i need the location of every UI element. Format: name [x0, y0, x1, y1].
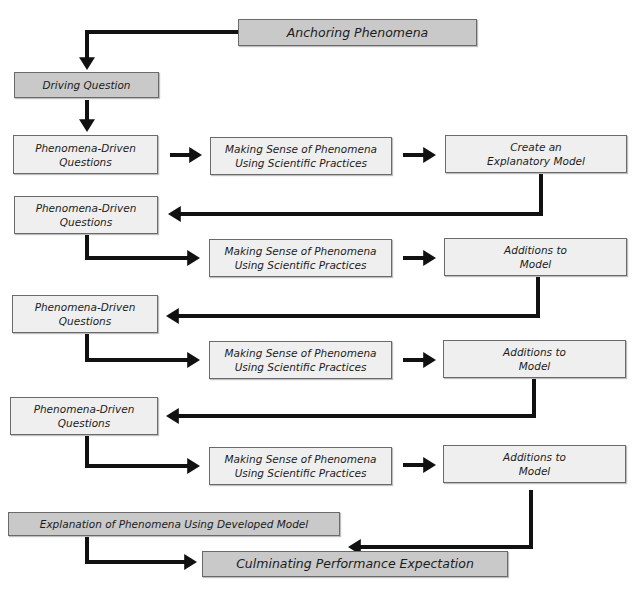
arrow-pdq2-to-ms2: [87, 235, 196, 258]
anchoring-phenomena-box: Anchoring Phenomena: [238, 19, 477, 46]
arrow-anchoring-to-driving: [87, 32, 238, 66]
node-label: Additions to Model: [503, 345, 566, 373]
flowchart: Anchoring Phenomena Driving Question Phe…: [0, 0, 637, 594]
arrow-add1-to-pdq3: [170, 277, 538, 316]
phenomena-driven-questions-box-1: Phenomena-Driven Questions: [13, 135, 158, 174]
create-explanatory-model-box: Create an Explanatory Model: [445, 135, 627, 173]
additions-to-model-box-1: Additions to Model: [444, 238, 627, 276]
node-label: Additions to Model: [504, 243, 567, 271]
arrow-explanation-to-culminating: [87, 537, 193, 562]
arrow-pdq3-to-ms3: [87, 334, 196, 360]
node-label: Making Sense of Phenomena Using Scientif…: [225, 346, 377, 374]
node-label: Anchoring Phenomena: [287, 26, 429, 40]
arrow-pdq4-to-ms4: [87, 436, 196, 466]
arrow-add2-to-pdq4: [170, 379, 534, 416]
arrow-add3-to-explanation: [352, 490, 531, 547]
node-label: Phenomena-Driven Questions: [34, 402, 135, 430]
node-label: Making Sense of Phenomena Using Scientif…: [225, 244, 377, 272]
phenomena-driven-questions-box-2: Phenomena-Driven Questions: [14, 196, 158, 234]
node-label: Making Sense of Phenomena Using Scientif…: [225, 452, 377, 480]
node-label: Additions to Model: [503, 450, 566, 478]
making-sense-box-3: Making Sense of Phenomena Using Scientif…: [209, 341, 392, 379]
node-label: Phenomena-Driven Questions: [35, 300, 136, 328]
culminating-performance-expectation-box: Culminating Performance Expectation: [202, 551, 508, 577]
additions-to-model-box-3: Additions to Model: [443, 445, 626, 483]
arrow-model-to-pdq2: [172, 174, 541, 214]
driving-question-box: Driving Question: [14, 72, 159, 98]
node-label: Driving Question: [42, 78, 130, 92]
phenomena-driven-questions-box-4: Phenomena-Driven Questions: [10, 397, 158, 435]
node-label: Phenomena-Driven Questions: [35, 141, 136, 169]
node-label: Phenomena-Driven Questions: [36, 201, 137, 229]
additions-to-model-box-2: Additions to Model: [443, 340, 626, 378]
node-label: Making Sense of Phenomena Using Scientif…: [225, 142, 377, 170]
explanation-of-phenomena-box: Explanation of Phenomena Using Developed…: [8, 512, 340, 536]
node-label: Culminating Performance Expectation: [236, 557, 474, 571]
phenomena-driven-questions-box-3: Phenomena-Driven Questions: [12, 295, 158, 333]
node-label: Create an Explanatory Model: [487, 140, 585, 168]
making-sense-box-1: Making Sense of Phenomena Using Scientif…: [210, 137, 392, 175]
making-sense-box-4: Making Sense of Phenomena Using Scientif…: [209, 447, 392, 485]
node-label: Explanation of Phenomena Using Developed…: [40, 517, 308, 531]
making-sense-box-2: Making Sense of Phenomena Using Scientif…: [209, 239, 392, 277]
